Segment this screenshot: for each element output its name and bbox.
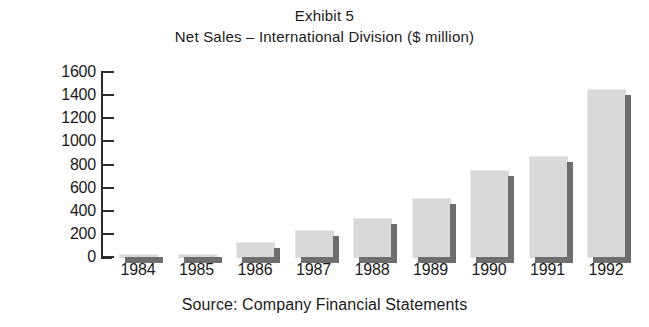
bar-shadow-right-1991: [567, 162, 573, 263]
bar-1987: [295, 230, 334, 258]
y-tick-1000: [103, 140, 114, 142]
y-tick-label-1400: 1400: [38, 87, 96, 103]
y-tick-label-wrap: 0: [36, 249, 96, 265]
y-tick-800: [103, 164, 114, 166]
y-tick-label-wrap: 400: [36, 203, 96, 219]
y-tick-label-wrap: 600: [36, 180, 96, 196]
bar-1990: [470, 170, 509, 258]
x-tick-label-1987: 1987: [284, 261, 344, 279]
y-tick-200: [103, 233, 114, 235]
x-tick-label-1990: 1990: [459, 261, 519, 279]
y-tick-label-600: 600: [38, 180, 96, 196]
bar-shadow-right-1989: [450, 204, 456, 263]
x-tick-label-1991: 1991: [518, 261, 578, 279]
x-tick-label-1985: 1985: [167, 261, 227, 279]
exhibit-chart-figure: Exhibit 5 Net Sales – International Divi…: [0, 0, 649, 327]
y-tick-label-wrap: 1000: [36, 133, 96, 149]
y-tick-label-1200: 1200: [38, 110, 96, 126]
x-tick-label-1992: 1992: [576, 261, 636, 279]
bar-shadow-right-1992: [625, 95, 631, 263]
x-tick-label-1989: 1989: [401, 261, 461, 279]
bar-shadow-right-1990: [508, 176, 514, 263]
y-tick-label-1600: 1600: [38, 64, 96, 80]
bar-1988: [353, 218, 392, 258]
y-tick-label-wrap: 1600: [36, 64, 96, 80]
bar-1991: [529, 156, 568, 258]
y-tick-label-400: 400: [38, 203, 96, 219]
source-note: Source: Company Financial Statements: [0, 295, 649, 315]
y-tick-0: [103, 256, 114, 258]
y-tick-label-wrap: 1200: [36, 110, 96, 126]
y-tick-1200: [103, 117, 114, 119]
x-tick-label-1984: 1984: [108, 261, 168, 279]
y-tick-label-wrap: 1400: [36, 87, 96, 103]
y-tick-label-800: 800: [38, 157, 96, 173]
y-tick-label-wrap: 200: [36, 226, 96, 242]
x-tick-label-1988: 1988: [342, 261, 402, 279]
y-tick-label-1000: 1000: [38, 133, 96, 149]
y-tick-1600: [103, 71, 114, 73]
x-tick-label-1986: 1986: [225, 261, 285, 279]
plot-area: 16001400120010008006004002000 1984198519…: [0, 0, 649, 327]
bar-1992: [587, 89, 626, 258]
y-tick-600: [103, 187, 114, 189]
y-tick-label-0: 0: [38, 249, 96, 265]
y-tick-label-200: 200: [38, 226, 96, 242]
bar-1986: [236, 242, 275, 258]
y-tick-label-wrap: 800: [36, 157, 96, 173]
y-tick-400: [103, 210, 114, 212]
bar-1989: [412, 198, 451, 258]
y-tick-1400: [103, 94, 114, 96]
